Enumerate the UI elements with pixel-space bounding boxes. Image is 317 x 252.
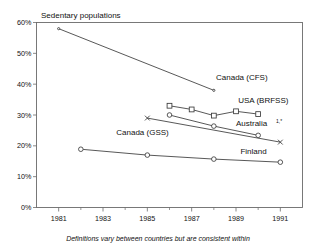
y-tick-label: 40% [17, 80, 32, 89]
y-tick-label: 30% [17, 111, 32, 120]
x-tick-label: 1991 [272, 214, 288, 223]
series-label-finland: Finland [240, 147, 266, 156]
series-label-canada-gss: Canada (GSS) [116, 128, 169, 137]
x-tick-label: 1989 [228, 214, 244, 223]
series-marker-square [211, 113, 216, 118]
series-label-superscript: 1,* [276, 118, 282, 124]
series-marker-circle [145, 153, 150, 158]
series-label-australia: Australia [236, 119, 268, 128]
x-tick-label: 1987 [184, 214, 200, 223]
y-tick-label: 0% [21, 203, 32, 212]
y-tick-label: 20% [17, 141, 32, 150]
series-label-canada-cfs: Canada (CFS) [216, 73, 268, 82]
y-tick-label: 10% [17, 172, 32, 181]
series-marker-square [167, 103, 172, 108]
x-tick-label: 1985 [139, 214, 155, 223]
chart-title: Sedentary populations [41, 11, 121, 20]
chart-container: Sedentary populations 0%10%20%30%40%50%6… [0, 0, 317, 252]
series-marker-square [189, 107, 194, 112]
y-tick-label: 60% [17, 18, 32, 27]
series-marker-circle [278, 160, 283, 165]
chart-footnote: Definitions vary between countries but a… [66, 235, 250, 243]
series-marker-point [213, 89, 215, 91]
series-marker-circle [167, 113, 172, 118]
series-marker-circle [212, 157, 217, 162]
sedentary-populations-line-chart: Sedentary populations 0%10%20%30%40%50%6… [0, 0, 317, 252]
series-marker-circle [212, 124, 217, 129]
y-tick-label: 50% [17, 49, 32, 58]
x-tick-label: 1981 [51, 214, 67, 223]
series-marker-point [58, 28, 60, 30]
series-marker-circle [256, 133, 261, 138]
series-marker-square [234, 109, 239, 114]
x-tick-label: 1983 [95, 214, 111, 223]
series-marker-square [256, 112, 261, 117]
series-label-usa-brfss: USA (BRFSS) [238, 96, 289, 105]
chart-background [0, 0, 317, 252]
series-marker-circle [79, 147, 84, 152]
